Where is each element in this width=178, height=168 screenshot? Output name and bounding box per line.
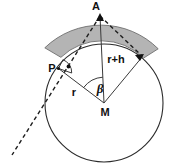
label-a: A xyxy=(92,0,100,12)
label-r-plus-h: r+h xyxy=(107,53,125,65)
label-m: M xyxy=(100,106,109,118)
arrowhead-at-a xyxy=(96,13,104,21)
label-angle-beta: β xyxy=(96,81,104,96)
label-radius-r: r xyxy=(72,86,77,98)
geometry-figure: A P M r r+h β xyxy=(0,0,178,168)
label-p: P xyxy=(48,62,55,74)
figure-canvas: A P M r r+h β xyxy=(0,0,178,168)
point-p-marker xyxy=(57,67,60,70)
dashed-tangent-a-p-extended xyxy=(12,16,100,155)
right-angle-dot xyxy=(67,65,71,69)
